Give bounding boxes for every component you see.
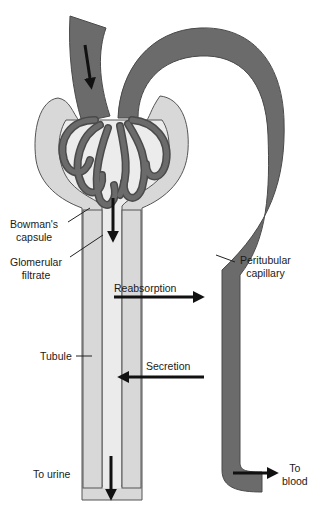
peritubular-capillary-label-line2: capillary [240,267,291,280]
tubule [83,210,141,488]
peritubular-capillary-label: Peritubular capillary [240,254,291,279]
bowmans-capsule-label-line2: capsule [10,231,58,244]
glomerular-filtrate-label: Glomerular filtrate [10,256,62,281]
peritubular-capillary-label-line1: Peritubular [240,254,291,267]
nephron-diagram: Bowman's capsule Glomerular filtrate Per… [0,0,314,506]
to-urine-label: To urine [33,468,70,481]
peritubular-capillary-leader [216,255,235,262]
to-blood-label-line1: To [282,462,308,475]
to-blood-label-line2: blood [282,475,308,488]
bowmans-capsule-label: Bowman's capsule [10,218,58,243]
bowmans-capsule-label-line1: Bowman's [10,218,58,231]
glomerular-filtrate-label-line2: filtrate [10,269,62,282]
tubule-label: Tubule [40,350,72,363]
secretion-label: Secretion [146,360,190,373]
glomerular-filtrate-label-line1: Glomerular [10,256,62,269]
reabsorption-label: Reabsorption [114,282,176,295]
to-blood-label: To blood [282,462,308,487]
nephron-illustration [0,0,314,506]
